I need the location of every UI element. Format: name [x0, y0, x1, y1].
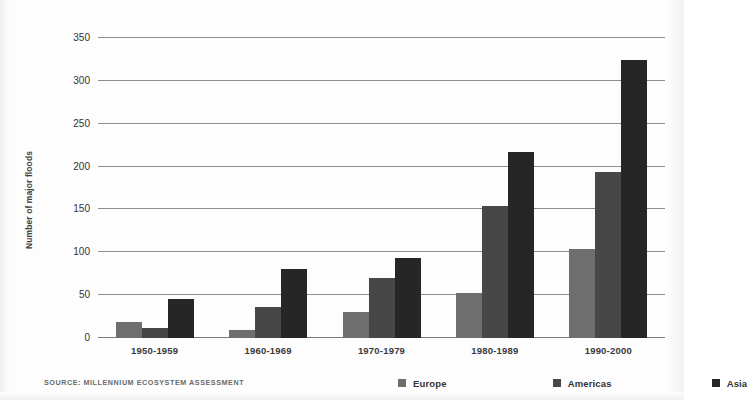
y-tick-label: 50: [52, 290, 90, 300]
x-axis-tick-labels: 1950-19591960-19691970-19791980-19891990…: [98, 345, 665, 361]
legend-label: Americas: [568, 378, 612, 389]
y-axis-tick-labels: 050100150200250300350: [50, 38, 90, 338]
bar-group: [456, 38, 534, 338]
bar-asia-1950-1959[interactable]: [168, 299, 194, 338]
legend-label: Asia: [727, 378, 747, 389]
page-edge-bottom: [0, 392, 684, 400]
legend-swatch-icon: [712, 379, 720, 387]
bar-americas-1990-2000[interactable]: [595, 172, 621, 338]
y-tick-label: 200: [52, 162, 90, 172]
legend-label: Europe: [413, 378, 447, 389]
bar-europe-1950-1959[interactable]: [116, 322, 142, 338]
bars-layer: [98, 38, 665, 338]
bar-americas-1960-1969[interactable]: [255, 307, 281, 338]
bar-americas-1950-1959[interactable]: [142, 328, 168, 338]
bar-americas-1970-1979[interactable]: [369, 278, 395, 338]
x-tick-label: 1980-1989: [438, 345, 551, 356]
bar-group: [229, 38, 307, 338]
bar-asia-1990-2000[interactable]: [621, 60, 647, 338]
source-note: SOURCE: MILLENNIUM ECOSYSTEM ASSESSMENT: [44, 378, 244, 387]
legend-swatch-icon: [398, 379, 406, 387]
chart-legend: EuropeAmericasAsia: [398, 376, 747, 390]
y-tick-label: 350: [52, 33, 90, 43]
bar-group: [569, 38, 647, 338]
bar-asia-1960-1969[interactable]: [281, 269, 307, 338]
y-tick-label: 100: [52, 247, 90, 257]
bar-group: [116, 38, 194, 338]
bar-americas-1980-1989[interactable]: [482, 206, 508, 338]
plot-area: [98, 38, 665, 338]
x-tick-label: 1970-1979: [325, 345, 438, 356]
legend-item-europe[interactable]: Europe: [398, 378, 447, 389]
legend-item-americas[interactable]: Americas: [553, 378, 612, 389]
legend-item-asia[interactable]: Asia: [712, 378, 747, 389]
x-tick-label: 1960-1969: [211, 345, 324, 356]
y-axis-title: Number of major floods: [24, 130, 34, 270]
bar-europe-1980-1989[interactable]: [456, 293, 482, 338]
y-tick-label: 250: [52, 119, 90, 129]
y-tick-label: 300: [52, 76, 90, 86]
page-edge-left: [0, 0, 10, 400]
y-tick-label: 0: [52, 333, 90, 343]
bar-europe-1970-1979[interactable]: [343, 312, 369, 338]
bar-europe-1990-2000[interactable]: [569, 249, 595, 338]
legend-swatch-icon: [553, 379, 561, 387]
bar-europe-1960-1969[interactable]: [229, 330, 255, 338]
bar-group: [343, 38, 421, 338]
bar-asia-1980-1989[interactable]: [508, 152, 534, 338]
page-edge-right: [666, 0, 684, 400]
x-tick-label: 1990-2000: [552, 345, 665, 356]
bar-asia-1970-1979[interactable]: [395, 258, 421, 338]
x-tick-label: 1950-1959: [98, 345, 211, 356]
y-tick-label: 150: [52, 204, 90, 214]
